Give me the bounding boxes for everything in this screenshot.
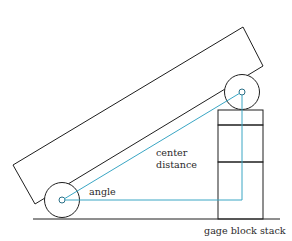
gage-block-middle (218, 125, 263, 162)
gage-block-top (218, 110, 263, 125)
center-distance-label-line1: center (156, 147, 188, 158)
gage-block-stack-label: gage block stack (204, 225, 286, 236)
sine-bar-diagram: angle center distance gage block stack (0, 0, 292, 241)
center-distance-label-line2: distance (156, 159, 197, 170)
angle-label: angle (89, 186, 116, 197)
gage-block-bottom (218, 162, 263, 219)
sine-bar-body (13, 27, 263, 204)
center-distance-line (64, 93, 240, 199)
gage-block-stack (218, 110, 263, 219)
